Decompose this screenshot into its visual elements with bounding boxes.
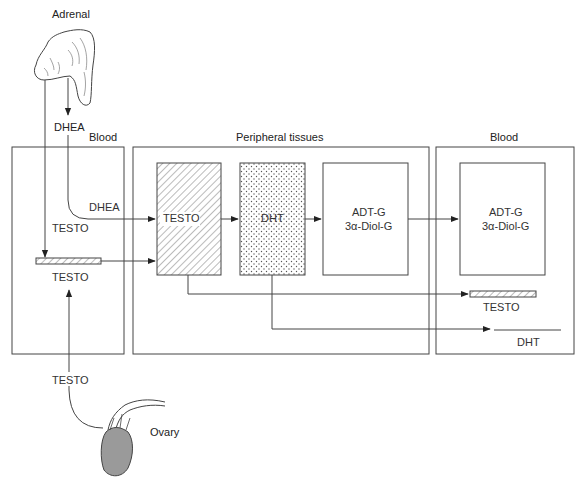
dht-tissue-label: DHT (261, 212, 284, 224)
testo-blood-label: TESTO (52, 271, 89, 283)
glucuronides-blood-line1: ADT-G (489, 206, 523, 218)
blood-left-title: Blood (89, 131, 117, 143)
testo-ovary-label: TESTO (52, 374, 89, 386)
glucuronides-tissue-line1: ADT-G (352, 206, 386, 218)
testo-blood-bar (36, 258, 101, 264)
testo-to-blood-arrow (188, 275, 468, 294)
peripheral-tissues-title: Peripheral tissues (236, 131, 324, 143)
androgen-metabolism-diagram: Adrenal Ovary Blood Peripheral tissues B… (0, 0, 584, 490)
testo-tissue-label: TESTO (163, 212, 200, 224)
dhea-adrenal-label: DHEA (54, 121, 85, 133)
adrenal-label: Adrenal (52, 8, 90, 20)
glucuronides-tissue-line2: 3α-Diol-G (345, 220, 392, 232)
glucuronides-blood-line2: 3α-Diol-G (482, 220, 529, 232)
testo-right-blood-bar (470, 291, 536, 297)
glucuronides-tissue-box (323, 163, 408, 275)
testo-adrenal-label: TESTO (52, 222, 89, 234)
dht-to-blood-arrow (272, 275, 490, 329)
blood-right-title: Blood (490, 131, 518, 143)
ovary-testo-arrow (69, 290, 103, 428)
glucuronides-blood-box (460, 163, 545, 275)
adrenal-gland-icon (34, 30, 94, 106)
dht-right-blood-label: DHT (517, 336, 540, 348)
dhea-blood-label: DHEA (89, 201, 120, 213)
ovary-label: Ovary (150, 426, 180, 438)
testo-right-blood-label: TESTO (483, 301, 520, 313)
